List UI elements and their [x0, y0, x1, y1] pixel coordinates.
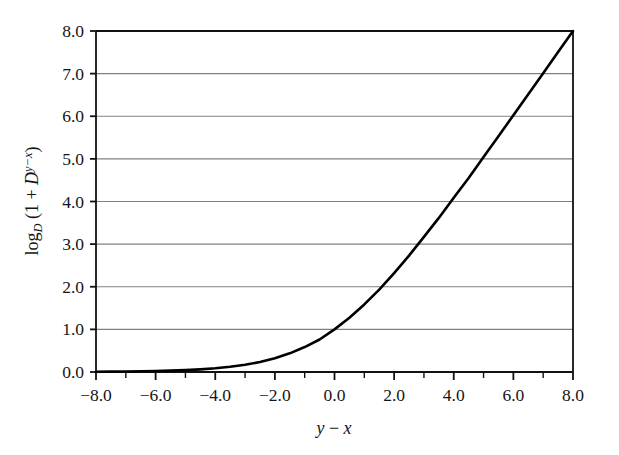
x-tick-label: 2.0 [383, 385, 405, 405]
x-tick-label: 6.0 [502, 385, 524, 405]
y-tick-label: 8.0 [62, 21, 84, 41]
x-axis-label: y − x [314, 418, 351, 438]
x-tick-label: 4.0 [443, 385, 465, 405]
y-tick-label: 3.0 [62, 234, 84, 254]
x-tick-label: −4.0 [199, 385, 231, 405]
x-tick-label: −8.0 [80, 385, 112, 405]
y-tick-labels: 0.01.02.03.04.05.06.07.08.0 [62, 21, 84, 382]
x-tick-labels: −8.0−6.0−4.0−2.00.02.04.06.08.0 [80, 385, 584, 405]
y-tick-label: 2.0 [62, 277, 84, 297]
x-tick-label: −6.0 [140, 385, 172, 405]
y-tick-label: 7.0 [62, 64, 84, 84]
y-tick-label: 0.0 [62, 362, 84, 382]
chart-svg: 0.01.02.03.04.05.06.07.08.0 −8.0−6.0−4.0… [0, 0, 619, 455]
y-tick-label: 1.0 [62, 319, 84, 339]
y-tick-label: 6.0 [62, 106, 84, 126]
x-tick-label: 8.0 [562, 385, 584, 405]
x-tick-label: 0.0 [324, 385, 346, 405]
y-tick-label: 5.0 [62, 149, 84, 169]
chart-figure: 0.01.02.03.04.05.06.07.08.0 −8.0−6.0−4.0… [0, 0, 619, 455]
x-tick-label: −2.0 [259, 385, 291, 405]
y-tick-label: 4.0 [62, 192, 84, 212]
